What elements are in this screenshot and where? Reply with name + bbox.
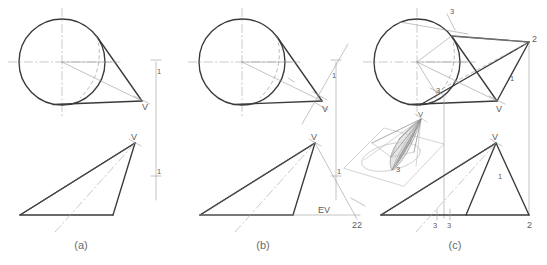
iso-construction-1 — [372, 143, 391, 157]
label-edge-view-b: EV — [318, 205, 330, 215]
label-1-front-c: 1 — [498, 172, 502, 181]
tangent-lower-b — [233, 101, 322, 105]
ray-tick-b — [288, 78, 294, 82]
label-iso-apex: V — [418, 110, 423, 119]
front-axis-c — [416, 143, 496, 232]
panel-c: 3 2 3 V 1 V 1 3 3 2 2 (c) — [352, 7, 537, 251]
label-apex-front-c: V — [492, 132, 498, 142]
panel-c-top-view: 3 2 3 V 1 — [363, 7, 537, 218]
label-fold-bottom-a: 1 — [157, 167, 161, 176]
label-3-front-c: 3 — [447, 221, 451, 230]
label-fold-top-a: 1 — [157, 67, 161, 76]
thin-3-to-2-c — [452, 36, 530, 42]
label-apex-front-b: V — [311, 132, 317, 142]
tangent-upper-b — [277, 36, 323, 101]
panel-a-fold-line: 1 1 — [151, 60, 161, 200]
apex-tick-top-c — [489, 96, 505, 104]
label-3-top-c: 3 — [450, 7, 454, 16]
panel-a: V 1 1 V (a) — [8, 8, 161, 251]
panel-b-front-view: V EV 2 — [129, 132, 365, 232]
label-apex-top-c: V — [496, 104, 502, 114]
caption-a: (a) — [74, 239, 87, 251]
construction-ray-center-to-apex-a — [62, 62, 142, 101]
front-right-slant-b — [293, 143, 315, 215]
ev-tick-b — [351, 198, 365, 206]
label-fold-bottom-b: 1 — [337, 167, 341, 176]
label-iso-element-3: 3 — [396, 165, 400, 174]
front-axis-a — [55, 143, 135, 232]
aux-line-top-c — [400, 22, 468, 34]
figure-root: V 1 1 V (a) — [0, 0, 547, 265]
tangent-lower-a — [53, 101, 142, 105]
label-apex-top-b: V — [322, 104, 328, 114]
label-apex-top-a: V — [142, 102, 148, 112]
panel-b: V 1 1 V EV 2 (b) — [129, 8, 365, 251]
front-element-a — [20, 143, 135, 215]
caption-c: (c) — [449, 239, 462, 251]
label-3-prime-front-c: 3 — [433, 221, 437, 230]
front-element-b — [200, 143, 315, 215]
label-3-point-c: 3 — [436, 86, 440, 95]
panel-a-front-view: V — [20, 132, 141, 232]
front-right-slant-a — [113, 143, 135, 215]
front-axis-b — [235, 143, 315, 232]
label-point-2-b: 2 — [357, 220, 362, 230]
label-1-top-c: 1 — [510, 74, 514, 83]
isometric-inset: V 3 — [344, 110, 444, 186]
panel-b-top-view: V 1 — [188, 8, 348, 124]
caption-b: (b) — [256, 239, 269, 251]
panel-b-fold-line: 1 — [331, 60, 341, 200]
label-aux-ref-b: 1 — [332, 71, 336, 80]
label-2-left-front-c: 2 — [352, 220, 357, 230]
engineering-drawing-canvas: V 1 1 V (a) — [0, 0, 547, 265]
construction-ray-center-to-apex-b — [242, 62, 322, 101]
panel-a-top-view: V — [8, 8, 150, 118]
label-2-top-c: 2 — [532, 34, 537, 44]
construction-ray-to-3top-c — [417, 36, 452, 62]
tangent-upper-a — [97, 36, 143, 101]
label-2-front-c: 2 — [527, 220, 532, 230]
front-inner-element-c — [466, 143, 496, 215]
aux-tick-top-c — [447, 14, 455, 30]
edge-3-top-to-V-c — [452, 36, 498, 101]
